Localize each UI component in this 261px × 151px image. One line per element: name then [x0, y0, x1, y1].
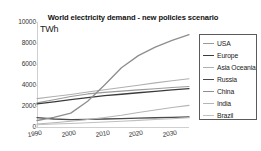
legend-swatch-icon [203, 55, 214, 56]
legend-label: Europe [217, 52, 238, 59]
legend-label: Asia Oceania [217, 64, 256, 71]
x-tick-label: 2020 [128, 129, 143, 138]
legend-swatch-icon [203, 79, 214, 80]
legend-item-russia[interactable]: Russia [200, 73, 256, 85]
legend-item-europe[interactable]: Europe [200, 49, 256, 61]
series-line-asia-oceania [37, 79, 189, 99]
legend-swatch-icon [203, 67, 214, 68]
legend-swatch-icon [203, 91, 214, 92]
legend-swatch-icon [203, 103, 214, 104]
legend-item-usa[interactable]: USA [200, 37, 256, 49]
legend-swatch-icon [203, 43, 214, 44]
legend-label: Russia [217, 76, 237, 83]
legend-item-brazil[interactable]: Brazil [200, 109, 256, 121]
x-tick-label: 2030 [162, 129, 177, 138]
series-line-china [37, 35, 189, 121]
legend-item-asia-oceania[interactable]: Asia Oceania [200, 61, 256, 73]
legend-item-india[interactable]: India [200, 97, 256, 109]
legend-label: India [217, 100, 231, 107]
legend-swatch-icon [203, 115, 214, 116]
legend-label: USA [217, 40, 231, 47]
chart-figure: World electricity demand - new policies … [0, 0, 261, 151]
series-lines [37, 22, 189, 127]
legend-label: Brazil [217, 112, 233, 119]
legend-label: China [217, 88, 234, 95]
x-tick-label: 2010 [95, 129, 110, 138]
chart-legend: USAEuropeAsia OceaniaRussiaChinaIndiaBra… [199, 34, 257, 120]
x-tick-label: 1990 [27, 129, 42, 138]
legend-item-china[interactable]: China [200, 85, 256, 97]
x-tick-label: 2000 [61, 129, 76, 138]
